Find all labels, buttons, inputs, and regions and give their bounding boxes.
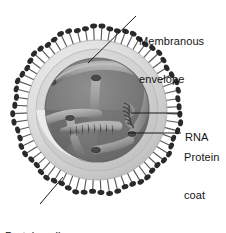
- protein-spike-head: [90, 23, 97, 28]
- protein-spike-head: [56, 30, 64, 38]
- strand-cut-end-lower-left: [66, 116, 74, 121]
- protein-spike-head: [167, 142, 175, 150]
- protein-spike-head: [14, 77, 21, 85]
- protein-spike-head: [143, 173, 152, 181]
- protein-spike-head: [64, 184, 72, 191]
- protein-spike-head: [178, 119, 184, 127]
- protein-spike-head: [18, 142, 26, 150]
- label-protein-spike-line1: Protein spike: [5, 230, 70, 233]
- label-protein-coat-line2: coat: [184, 189, 220, 202]
- protein-spike-head: [174, 127, 181, 135]
- label-membranous-envelope-line2: envelope: [139, 73, 204, 86]
- protein-spike-head: [136, 178, 145, 186]
- strand-cut-end-right: [128, 132, 136, 137]
- protein-spike-head: [12, 102, 17, 109]
- strand-cut-end-center: [91, 75, 100, 80]
- protein-spike-head: [13, 85, 20, 93]
- protein-spike-head: [114, 188, 122, 195]
- label-protein-spike: Protein spike: [5, 205, 70, 233]
- protein-spike-head: [16, 134, 23, 142]
- strand-cut-end-bottom: [92, 147, 100, 152]
- protein-spike-head: [98, 23, 105, 28]
- protein-spike-head: [65, 28, 73, 35]
- label-membranous-envelope-line1: Membranous: [139, 35, 204, 48]
- protein-spike-head: [177, 111, 182, 118]
- protein-spike-head: [50, 36, 59, 44]
- protein-spike-head: [80, 189, 88, 195]
- protein-spike-head: [26, 56, 34, 65]
- protein-spike-head: [44, 41, 53, 49]
- label-protein-coat: Protein coat: [184, 126, 220, 214]
- protein-spike-head: [21, 150, 29, 159]
- protein-spike-head: [82, 26, 90, 32]
- protein-spike-head: [13, 93, 19, 101]
- protein-spike-head: [106, 191, 114, 197]
- protein-spike-head: [73, 27, 81, 34]
- protein-spike-head: [176, 103, 181, 110]
- protein-spike-head: [10, 110, 15, 117]
- protein-spike-head: [160, 156, 168, 165]
- protein-spike-head: [128, 180, 136, 188]
- protein-spike-head: [89, 189, 96, 194]
- label-protein-coat-line1: Protein: [184, 151, 220, 164]
- protein-spike-head: [97, 190, 104, 195]
- protein-spike-head: [19, 70, 27, 78]
- protein-spike-head: [106, 26, 114, 32]
- protein-spike-head: [170, 134, 177, 142]
- protein-spike-head: [129, 30, 137, 38]
- protein-spike-head: [27, 155, 35, 164]
- protein-spike-head: [165, 150, 173, 159]
- protein-spike-head: [121, 183, 129, 190]
- protein-spike-head: [23, 64, 31, 73]
- protein-spike-head: [42, 174, 51, 182]
- protein-spike-head: [72, 189, 80, 196]
- protein-spike-head: [57, 180, 65, 188]
- label-membranous-envelope: Membranous envelope: [139, 10, 204, 98]
- protein-spike-head: [11, 118, 17, 126]
- protein-spike-head: [14, 126, 21, 134]
